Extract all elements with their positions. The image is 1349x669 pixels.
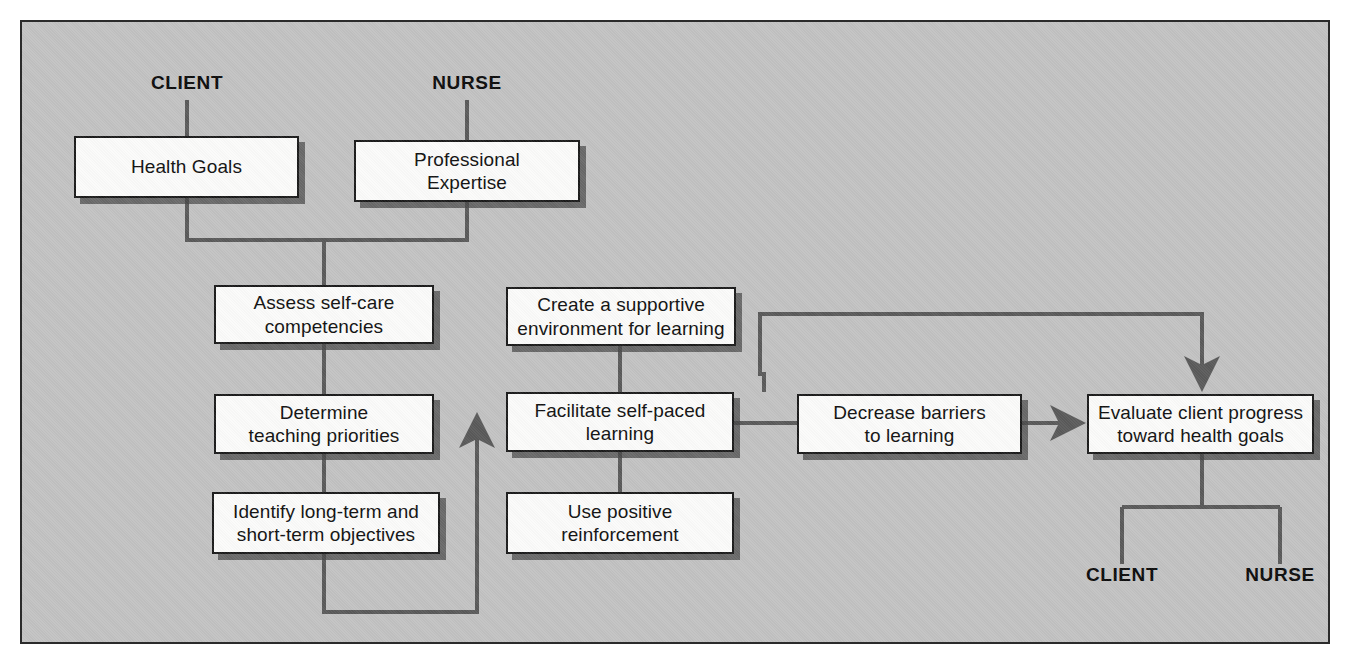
- node-professional-expertise-line1: Professional: [414, 148, 520, 171]
- node-decrease-barriers-line2: to learning: [833, 424, 986, 447]
- node-health-goals-line1: Health Goals: [131, 155, 242, 178]
- node-professional-expertise-line2: Expertise: [414, 171, 520, 194]
- node-decrease-barriers-line1: Decrease barriers: [833, 401, 986, 424]
- node-professional-expertise[interactable]: Professional Expertise: [354, 140, 580, 202]
- node-facilitate-self-paced-learning[interactable]: Facilitate self-paced learning: [506, 392, 734, 452]
- node-assess-self-care-line1: Assess self-care: [254, 291, 395, 314]
- role-label-client-bottom: CLIENT: [1062, 564, 1182, 586]
- node-create-supportive-environment[interactable]: Create a supportive environment for lear…: [506, 287, 736, 346]
- node-assess-self-care[interactable]: Assess self-care competencies: [214, 285, 434, 344]
- node-identify-objectives-line1: Identify long-term and: [233, 500, 419, 523]
- diagram-canvas: CLIENT NURSE Health Goals Professional E…: [0, 0, 1349, 669]
- node-evaluate-progress-line1: Evaluate client progress: [1098, 401, 1303, 424]
- node-determine-teaching-priorities[interactable]: Determine teaching priorities: [214, 394, 434, 454]
- node-decrease-barriers[interactable]: Decrease barriers to learning: [797, 394, 1022, 454]
- node-use-positive-line2: reinforcement: [561, 523, 678, 546]
- node-assess-self-care-line2: competencies: [254, 315, 395, 338]
- node-create-supportive-line2: environment for learning: [517, 317, 724, 340]
- node-identify-objectives[interactable]: Identify long-term and short-term object…: [212, 492, 440, 554]
- wire-top-merge-bus: [187, 198, 467, 240]
- role-label-nurse-bottom: NURSE: [1220, 564, 1340, 586]
- node-determine-teaching-line1: Determine: [249, 401, 400, 424]
- role-label-client-top: CLIENT: [127, 72, 247, 94]
- node-evaluate-progress-line2: toward health goals: [1098, 424, 1303, 447]
- node-identify-objectives-line2: short-term objectives: [233, 523, 419, 546]
- node-facilitate-learning-line2: learning: [534, 422, 705, 445]
- node-use-positive-reinforcement[interactable]: Use positive reinforcement: [506, 492, 734, 554]
- diagram-panel: CLIENT NURSE Health Goals Professional E…: [20, 20, 1330, 644]
- node-determine-teaching-line2: teaching priorities: [249, 424, 400, 447]
- node-health-goals[interactable]: Health Goals: [74, 136, 299, 198]
- role-label-nurse-top: NURSE: [407, 72, 527, 94]
- node-facilitate-learning-line1: Facilitate self-paced: [534, 399, 705, 422]
- node-use-positive-line1: Use positive: [561, 500, 678, 523]
- wire-facilitate-to-evaluate-top: [760, 314, 1202, 392]
- node-create-supportive-line1: Create a supportive: [517, 293, 724, 316]
- node-evaluate-client-progress[interactable]: Evaluate client progress toward health g…: [1087, 394, 1314, 454]
